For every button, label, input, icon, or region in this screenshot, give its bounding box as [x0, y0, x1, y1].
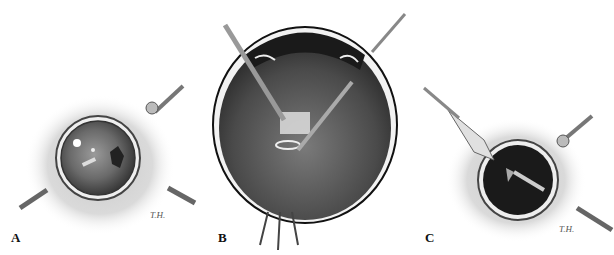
signature-a: T.H. [150, 210, 165, 220]
panel-label-b: B [218, 230, 227, 246]
panel-c: T.H. C [414, 0, 614, 255]
eye-surgical-view-illustration-c: T.H. [414, 0, 614, 255]
panel-a: T.H. A [0, 0, 200, 255]
instrument-right [168, 188, 195, 203]
eye-cross-section-illustration-b [200, 0, 414, 255]
signature-c: T.H. [559, 224, 574, 234]
instrument-port [155, 86, 183, 112]
panel-label-a: A [11, 230, 20, 246]
panel-label-c: C [425, 230, 434, 246]
eye-surgical-view-illustration-a: T.H. [0, 0, 200, 255]
panel-b: B [200, 0, 414, 255]
